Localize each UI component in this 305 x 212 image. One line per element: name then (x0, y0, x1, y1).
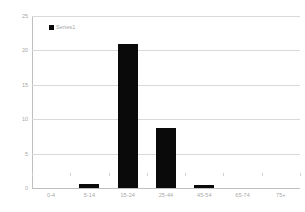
bar-25-44 (156, 128, 176, 189)
bar-slot (185, 16, 223, 188)
x-tick-label-25-44: 25-44 (147, 192, 185, 199)
y-tick-label: 10 (4, 116, 28, 122)
x-tick-label-75plus: 75+ (262, 192, 300, 199)
x-tick-mark (262, 173, 263, 176)
y-tick-label: 5 (4, 151, 28, 157)
bar-5-14 (79, 184, 99, 188)
y-tick-label: 25 (4, 13, 28, 19)
bar-slot (109, 16, 147, 188)
x-tick-mark (147, 173, 148, 176)
x-tick-label-0-4: 0-4 (32, 192, 70, 199)
x-tick-label-15-24: 15-24 (109, 192, 147, 199)
bar-45-54 (194, 185, 214, 188)
y-tick-label: 15 (4, 82, 28, 88)
bar-slot (70, 16, 108, 188)
x-tick-label-65-74: 65-74 (223, 192, 261, 199)
y-tick-label: 20 (4, 47, 28, 53)
bar-15-24 (118, 44, 138, 189)
legend-label-series1: Series1 (56, 24, 75, 30)
bar-slot (262, 16, 300, 188)
legend: Series1 (49, 24, 75, 30)
bar-slot (223, 16, 261, 188)
plot-area (32, 16, 300, 188)
x-tick-label-45-54: 45-54 (185, 192, 223, 199)
x-tick-mark (70, 173, 71, 176)
x-tick-mark (223, 173, 224, 176)
gridline-0 (32, 188, 300, 189)
y-tick-label: 0 (4, 185, 28, 191)
x-tick-mark (32, 173, 33, 176)
x-tick-mark (300, 173, 301, 176)
x-tick-mark (185, 173, 186, 176)
x-tick-label-5-14: 5-14 (70, 192, 108, 199)
bar-chart: 25 20 15 10 5 0 (0, 0, 305, 212)
legend-swatch-series1 (49, 25, 54, 30)
x-tick-mark (109, 173, 110, 176)
bar-slot (147, 16, 185, 188)
bar-slot (32, 16, 70, 188)
